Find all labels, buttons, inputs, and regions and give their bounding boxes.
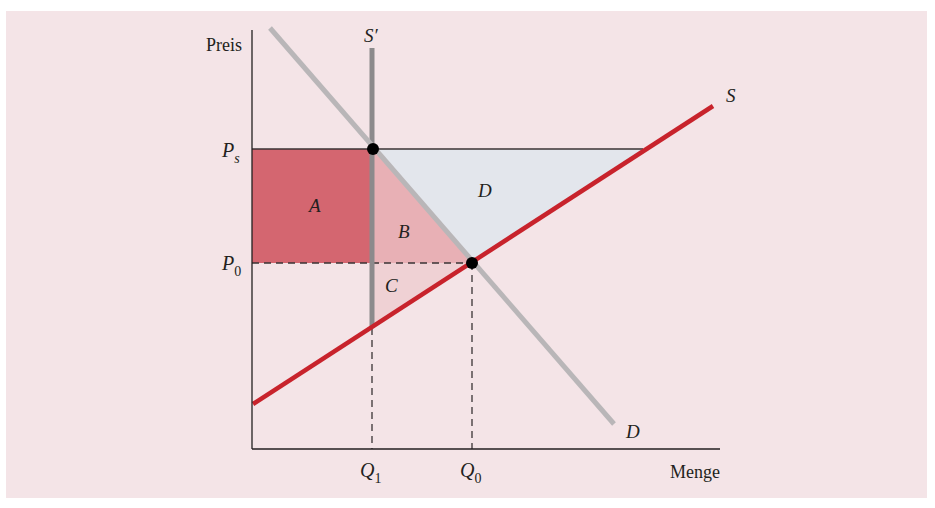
x-axis-label: Menge	[670, 462, 720, 482]
equilibrium-point	[466, 257, 478, 269]
q1-label: Q1	[360, 459, 381, 486]
s-prime-ps-point	[367, 143, 379, 155]
y-axis-label: Preis	[206, 35, 242, 55]
ps-label: Ps	[221, 139, 240, 166]
area-a-label: A	[307, 195, 321, 216]
area-c-label: C	[385, 275, 398, 296]
q0-label: Q0	[460, 459, 481, 486]
supply-demand-diagram: Preis Menge S′ S D Ps P0 Q1 Q0 A B C D	[0, 0, 935, 508]
supply-label: S	[726, 85, 736, 106]
p0-label: P0	[221, 252, 241, 279]
s-prime-label: S′	[364, 25, 379, 46]
area-d-label: D	[477, 180, 492, 201]
area-b-label: B	[398, 221, 410, 242]
demand-label: D	[625, 421, 640, 442]
